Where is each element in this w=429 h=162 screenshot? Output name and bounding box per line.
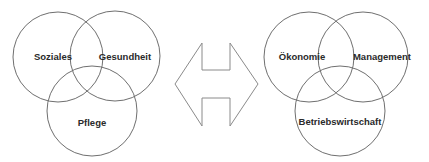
- label-management: Management: [353, 51, 412, 62]
- circle-pflege: [47, 66, 137, 156]
- label-oekonomie: Ökonomie: [279, 51, 325, 62]
- label-gesundheit: Gesundheit: [99, 51, 152, 62]
- left-venn-diagram: Soziales Gesundheit Pflege: [13, 11, 160, 156]
- label-betriebswirtschaft: Betriebswirtschaft: [299, 116, 383, 127]
- diagram-canvas: Soziales Gesundheit Pflege Ökonomie Mana…: [0, 0, 429, 162]
- double-arrow-icon: [175, 43, 258, 126]
- label-pflege: Pflege: [78, 117, 107, 128]
- circle-betriebswirtschaft: [295, 66, 385, 156]
- right-venn-diagram: Ökonomie Management Betriebswirtschaft: [264, 12, 412, 156]
- label-soziales: Soziales: [34, 51, 72, 62]
